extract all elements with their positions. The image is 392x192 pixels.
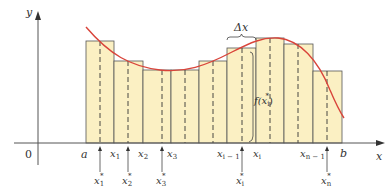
- delta-x-brace: [227, 34, 256, 40]
- delta-x-label: Δx: [233, 21, 249, 34]
- label-a: a: [81, 148, 88, 161]
- x-axis-label: x: [376, 150, 383, 163]
- label-xi-minus-1: xi − 1: [217, 148, 240, 161]
- origin-label: 0: [25, 148, 32, 161]
- label-xn-star: xn*: [321, 172, 332, 188]
- riemann-rectangle: [143, 70, 171, 143]
- label-x3: x3: [167, 148, 177, 161]
- riemann-sum-diagram: y x 0 a b x1 x2 x3 xi − 1 xi xn − 1 x1* …: [0, 0, 392, 192]
- label-xi-star: xi*: [236, 172, 245, 188]
- label-x3-star: x3*: [156, 172, 166, 188]
- rectangles-group: [86, 38, 342, 143]
- label-x2: x2: [138, 148, 148, 161]
- sample-arrows: [98, 146, 329, 172]
- label-x1: x1: [110, 148, 120, 161]
- y-axis-label: y: [25, 6, 33, 19]
- label-b: b: [340, 147, 347, 160]
- x-axis-arrow-icon: [376, 140, 385, 146]
- riemann-rectangle: [227, 48, 256, 143]
- riemann-rectangle: [114, 61, 143, 143]
- label-x2-star: x2*: [122, 172, 132, 188]
- label-x1-star: x1*: [94, 172, 104, 188]
- label-xi: xi: [253, 148, 262, 161]
- y-axis-arrow-icon: [35, 11, 41, 20]
- riemann-rectangle: [284, 44, 313, 143]
- f-xi-star-label: f(xi*): [253, 92, 273, 108]
- diagram-canvas: y x 0 a b x1 x2 x3 xi − 1 xi xn − 1 x1* …: [0, 0, 392, 192]
- label-xn-minus-1: xn − 1: [300, 148, 325, 161]
